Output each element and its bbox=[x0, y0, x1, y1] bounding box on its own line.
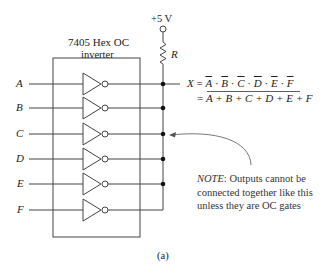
resistor-label: R bbox=[171, 49, 178, 60]
eq-line2-expr: A + B + C + D + E + F bbox=[206, 92, 313, 104]
eq-op: · bbox=[215, 77, 219, 89]
equation-line1: X = A · B · C · D · E · F bbox=[187, 78, 294, 89]
circuit-diagram bbox=[0, 0, 327, 277]
note-line2: connected together like this bbox=[197, 186, 313, 200]
chip-title-line1: 7405 Hex OC bbox=[68, 37, 129, 48]
eq-op: · bbox=[247, 77, 251, 89]
eq-term: A bbox=[205, 77, 212, 89]
eq-term: B bbox=[221, 77, 228, 89]
eq-op: · bbox=[280, 77, 284, 89]
note-line1: : Outputs cannot be bbox=[224, 173, 306, 184]
eq-term: D bbox=[254, 77, 262, 89]
eq-op: · bbox=[231, 77, 235, 89]
eq-term: C bbox=[237, 77, 244, 89]
note-line3: unless they are OC gates bbox=[197, 199, 313, 213]
input-label-c: C bbox=[16, 128, 23, 139]
note-prefix: NOTE bbox=[197, 173, 224, 184]
figure-caption: (a) bbox=[157, 251, 169, 262]
eq-term: E bbox=[271, 77, 278, 89]
eq-lhs: X bbox=[187, 77, 194, 89]
chip-title-line2: inverter bbox=[81, 50, 114, 61]
eq-op: · bbox=[264, 77, 268, 89]
arrow-head-icon bbox=[169, 132, 176, 138]
input-label-a: A bbox=[16, 78, 23, 89]
equation-line2: = A + B + C + D + E + F bbox=[197, 93, 313, 104]
input-label-f: F bbox=[17, 204, 24, 215]
eq-sign-1: = bbox=[196, 77, 202, 89]
supply-label: +5 V bbox=[151, 14, 172, 25]
supply-terminal bbox=[160, 26, 166, 32]
note-arrow bbox=[171, 134, 251, 165]
inverter-gates bbox=[29, 73, 163, 221]
eq-sign-2: = bbox=[197, 92, 203, 104]
input-label-d: D bbox=[16, 153, 24, 164]
pullup-resistor bbox=[160, 42, 166, 66]
eq-term: F bbox=[287, 77, 294, 89]
note-text: NOTE: Outputs cannot be connected togeth… bbox=[197, 172, 313, 213]
input-label-b: B bbox=[16, 102, 23, 113]
input-label-e: E bbox=[17, 178, 24, 189]
